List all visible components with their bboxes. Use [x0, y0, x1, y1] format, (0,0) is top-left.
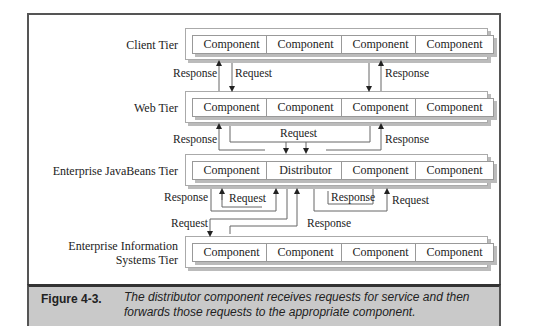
label-ejb-internal-response-left: Response: [164, 191, 208, 203]
connector-arrows: [0, 0, 554, 326]
label-ejb-eis-response: Response: [307, 217, 351, 229]
label-ejb-eis-request: Request: [171, 217, 208, 229]
label-web-ejb-request: Request: [280, 127, 317, 139]
label-ejb-internal-request-left: Request: [229, 192, 266, 204]
figure-caption-text: The distributor component receives reque…: [124, 290, 484, 320]
label-client-web-response-right: Response: [385, 67, 429, 79]
label-ejb-internal-request-right: Request: [392, 194, 429, 206]
label-client-web-request: Request: [235, 67, 272, 79]
label-client-web-response-left: Response: [173, 67, 217, 79]
label-web-ejb-response-right: Response: [385, 133, 429, 145]
label-web-ejb-response-left: Response: [173, 133, 217, 145]
figure-caption: Figure 4-3. The distributor component re…: [27, 284, 501, 326]
figure-number: Figure 4-3.: [41, 292, 102, 306]
label-ejb-internal-response-right: Response: [331, 191, 375, 203]
